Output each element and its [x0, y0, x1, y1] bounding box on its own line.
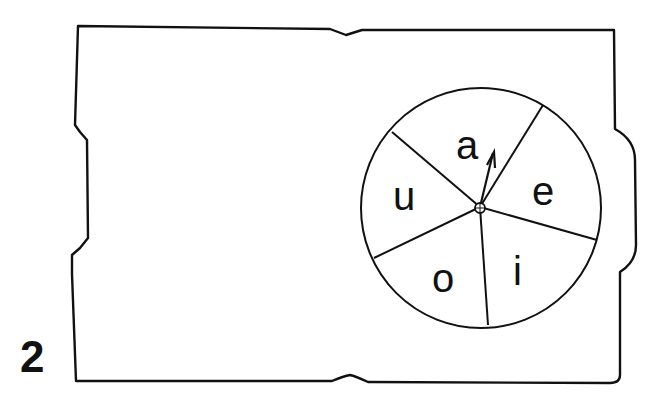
- sector-label-u: u: [393, 174, 415, 218]
- card-diagram: a e i o u: [0, 0, 665, 399]
- sector-label-a: a: [456, 123, 479, 167]
- sector-label-e: e: [532, 169, 554, 213]
- sector-labels: a e i o u: [393, 123, 554, 300]
- arrow-icon: [480, 152, 495, 207]
- figure-number: 2: [20, 335, 44, 379]
- sector-label-i: i: [513, 249, 522, 293]
- sector-label-o: o: [432, 256, 454, 300]
